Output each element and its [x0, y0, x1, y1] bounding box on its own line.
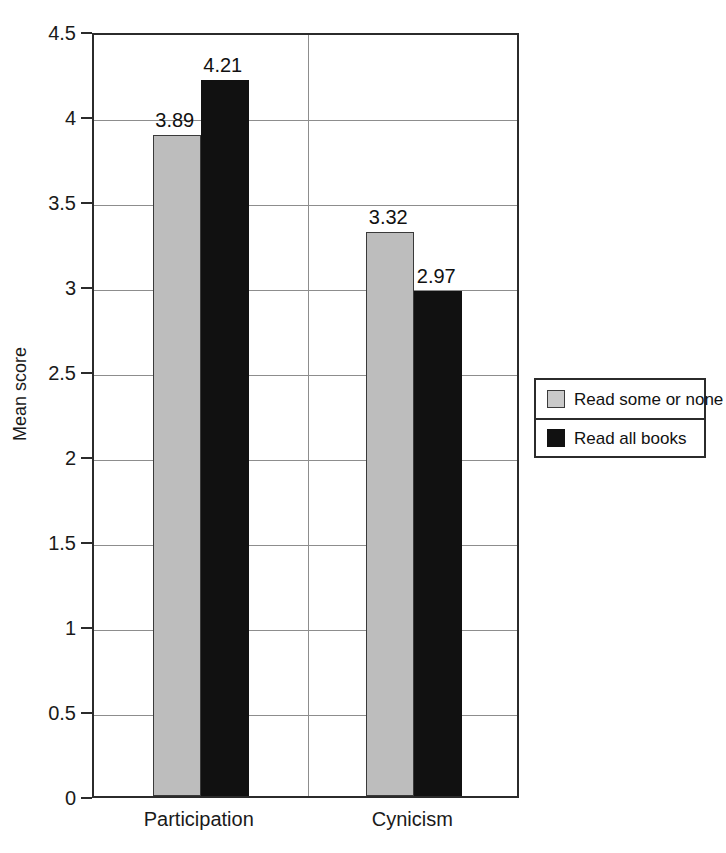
- bar-value-label: 2.97: [396, 266, 476, 286]
- bar-value-label: 4.21: [183, 55, 263, 75]
- bar: [414, 291, 462, 796]
- y-tick-mark: [81, 202, 92, 204]
- y-tick-mark: [81, 117, 92, 119]
- y-tick-label: 4: [22, 108, 76, 128]
- bar-chart: 00.511.522.533.544.5 Mean score 3.894.21…: [0, 0, 726, 853]
- y-tick-mark: [81, 457, 92, 459]
- legend-label: Read all books: [574, 430, 686, 447]
- y-tick-label: 0.5: [22, 703, 76, 723]
- y-tick-mark: [81, 32, 92, 34]
- y-tick-mark: [81, 287, 92, 289]
- bar: [153, 135, 201, 796]
- y-tick-mark: [81, 797, 92, 799]
- y-tick-label: 0: [22, 788, 76, 808]
- y-tick-label: 3: [22, 278, 76, 298]
- legend-item-read-some-or-none[interactable]: Read some or none: [536, 380, 704, 418]
- y-tick-label: 1: [22, 618, 76, 638]
- bar: [201, 80, 249, 796]
- y-tick-label: 2.5: [22, 363, 76, 383]
- y-tick-mark: [81, 372, 92, 374]
- y-tick-label: 4.5: [22, 23, 76, 43]
- y-tick-mark: [81, 542, 92, 544]
- y-axis-title: Mean score: [11, 334, 29, 454]
- plot-area: [92, 33, 519, 798]
- y-tick-label: 1.5: [22, 533, 76, 553]
- bar-value-label: 3.32: [348, 207, 428, 227]
- legend-item-read-all-books[interactable]: Read all books: [536, 418, 704, 456]
- y-tick-label: 3.5: [22, 193, 76, 213]
- legend-swatch-icon-series-1: [547, 429, 565, 447]
- y-tick-mark: [81, 712, 92, 714]
- category-divider: [308, 35, 309, 796]
- legend-label: Read some or none: [574, 391, 723, 408]
- y-tick-label: 2: [22, 448, 76, 468]
- x-tick-label: Cynicism: [302, 808, 522, 830]
- legend: Read some or none Read all books: [534, 378, 706, 458]
- bar-value-label: 3.89: [135, 110, 215, 130]
- bar: [366, 232, 414, 796]
- legend-swatch-icon-series-0: [547, 390, 565, 408]
- y-tick-mark: [81, 627, 92, 629]
- x-tick-label: Participation: [89, 808, 309, 830]
